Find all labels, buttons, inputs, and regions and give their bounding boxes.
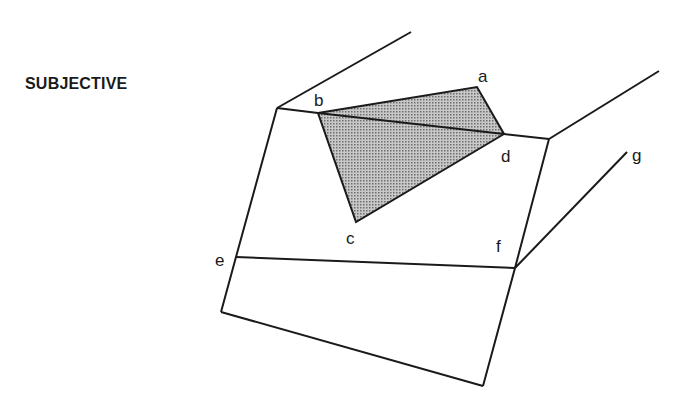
label-g: g: [632, 146, 641, 165]
line-fg: [515, 152, 627, 268]
label-b: b: [314, 91, 323, 110]
line-ef: [236, 257, 515, 268]
back-edge-left: [277, 32, 411, 108]
top-edge-right: [504, 134, 549, 139]
back-edge-right: [549, 71, 659, 139]
label-d: d: [501, 147, 510, 166]
right-edge: [483, 139, 549, 386]
label-e: e: [215, 251, 224, 270]
label-c: c: [346, 229, 355, 248]
bottom-edge: [221, 312, 483, 386]
label-a: a: [478, 67, 488, 86]
block-diagram: a b c d e f g: [0, 0, 698, 397]
left-edge: [221, 108, 277, 312]
top-edge: [277, 108, 318, 113]
shaded-plane: [318, 87, 504, 222]
label-f: f: [496, 237, 501, 256]
